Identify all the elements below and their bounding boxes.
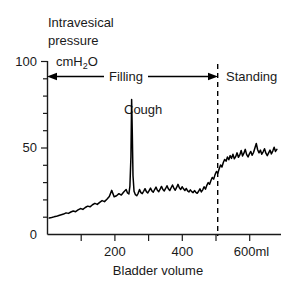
y-axis-unit-label: cmH2O [56,54,98,71]
y-axis-title-line1: Intravesical [48,15,114,30]
x-axis-title: Bladder volume [113,263,203,278]
filling-phase-label: Filling [109,69,143,84]
cystometrogram-figure: Intravesical pressure cmH2O 100 50 0 [0,0,287,286]
pressure-trace-line [49,100,277,219]
y-axis-ticks [41,62,48,218]
filling-phase-arrow: Filling [47,68,218,85]
chart-svg: Intravesical pressure cmH2O 100 50 0 [0,0,287,286]
x-axis-ticks [81,235,250,242]
y-axis-unit-suffix: O [88,54,98,69]
cough-annotation-label: Cough [124,102,162,117]
x-tick-label-200: 200 [104,244,126,259]
x-tick-label-600: 600ml [234,244,270,259]
y-axis-unit-prefix: cmH [56,54,83,69]
arrow-head-right [208,73,218,80]
x-tick-label-400: 400 [171,244,193,259]
standing-phase-label: Standing [226,69,277,84]
y-tick-label-50: 50 [23,140,37,155]
y-tick-label-100: 100 [15,54,37,69]
svg-text:cmH2O: cmH2O [56,54,98,71]
y-axis-title-line2: pressure [48,33,99,48]
arrow-head-left [47,73,57,80]
y-tick-label-0: 0 [30,227,37,242]
